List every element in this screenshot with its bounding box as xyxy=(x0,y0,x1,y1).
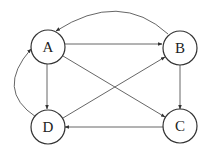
edge-d-to-b xyxy=(63,57,165,118)
node-b: B xyxy=(163,31,197,65)
graph-diagram: A B C D xyxy=(0,0,205,148)
edge-a-to-c xyxy=(63,56,165,117)
node-a-label: A xyxy=(43,39,54,55)
node-a: A xyxy=(31,30,65,64)
edges xyxy=(14,11,180,127)
node-d-label: D xyxy=(43,119,54,135)
node-c-label: C xyxy=(175,118,185,134)
node-c: C xyxy=(163,109,197,143)
node-b-label: B xyxy=(175,40,185,56)
edge-b-to-a xyxy=(56,11,168,34)
edge-d-to-a xyxy=(14,49,36,117)
node-d: D xyxy=(31,110,65,144)
